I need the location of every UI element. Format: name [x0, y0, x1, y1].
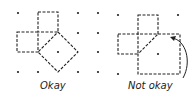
okay-shapes — [17, 12, 78, 72]
top-square — [38, 12, 58, 32]
not-okay-label: Not okay — [128, 80, 173, 91]
okay-label: Okay — [40, 80, 66, 91]
left-square-r — [118, 34, 138, 54]
not-okay-panel — [117, 14, 187, 78]
left-square — [17, 32, 38, 52]
top-square-r — [138, 15, 158, 34]
okay-panel — [17, 12, 99, 73]
not-okay-shapes — [118, 15, 180, 74]
